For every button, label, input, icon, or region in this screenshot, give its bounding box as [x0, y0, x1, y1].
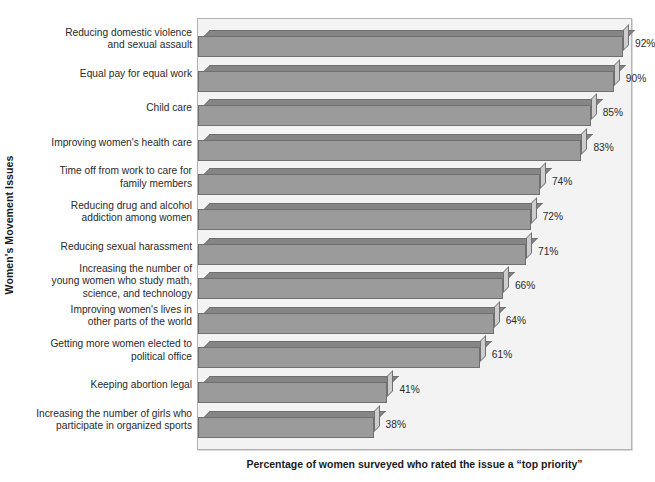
category-label: Keeping abortion legal: [18, 379, 192, 392]
category-label-line: political office: [131, 351, 192, 362]
category-label-line: Child care: [146, 102, 192, 113]
category-label: Time off from work to care forfamily mem…: [18, 165, 192, 190]
bar[interactable]: [198, 417, 374, 438]
bar-value-label: 74%: [552, 176, 572, 187]
bar-side-face: [540, 162, 546, 189]
category-label: Increasing the number ofyoung women who …: [18, 263, 192, 301]
bar[interactable]: [198, 244, 526, 265]
bar-value-label: 72%: [543, 211, 563, 222]
bar-row: 85%: [198, 94, 631, 130]
bar-row: 64%: [198, 302, 631, 338]
category-label-line: Increasing the number of girls who: [36, 408, 192, 419]
bar-row: 66%: [198, 267, 631, 303]
bar[interactable]: [198, 71, 614, 92]
category-label: Child care: [18, 102, 192, 115]
category-label-line: Improving women's health care: [51, 137, 192, 148]
bar-side-face: [494, 301, 500, 328]
chart-plot-area: 92%90%85%83%74%72%71%66%64%61%41%38%: [197, 18, 632, 450]
category-label-line: Reducing sexual harassment: [61, 241, 192, 252]
bar[interactable]: [198, 105, 591, 126]
bar[interactable]: [198, 36, 623, 57]
category-label-line: other parts of the world: [88, 316, 192, 327]
bar-row: 83%: [198, 129, 631, 165]
category-label: Improving women's lives inother parts of…: [18, 304, 192, 329]
category-label: Increasing the number of girls whopartic…: [18, 408, 192, 433]
bar[interactable]: [198, 209, 531, 230]
category-label: Reducing sexual harassment: [18, 241, 192, 254]
bar-row: 71%: [198, 233, 631, 269]
bar-value-label: 38%: [386, 419, 406, 430]
y-axis-title: Women's Movement Issues: [0, 0, 18, 450]
bar-value-label: 90%: [626, 73, 646, 84]
x-axis-title: Percentage of women surveyed who rated t…: [197, 458, 632, 470]
bar-value-label: 61%: [492, 349, 512, 360]
bar[interactable]: [198, 174, 540, 195]
category-label: Getting more women elected topolitical o…: [18, 338, 192, 363]
bar-side-face: [526, 232, 532, 259]
bar-side-face: [581, 128, 587, 155]
bar-value-label: 85%: [603, 107, 623, 118]
category-label-line: family members: [120, 178, 192, 189]
bar-side-face: [591, 93, 597, 120]
category-label-line: Equal pay for equal work: [80, 68, 192, 79]
category-label-line: science, and technology: [83, 288, 192, 299]
category-label: Reducing drug and alcoholaddiction among…: [18, 200, 192, 225]
bar-value-label: 92%: [635, 38, 655, 49]
category-label-line: Reducing drug and alcohol: [71, 200, 192, 211]
bar-value-label: 66%: [515, 280, 535, 291]
bar-value-label: 41%: [399, 384, 419, 395]
bar-side-face: [480, 335, 486, 362]
bar[interactable]: [198, 313, 494, 334]
bar-side-face: [503, 266, 509, 293]
category-label-column: Reducing domestic violenceand sexual ass…: [18, 18, 196, 450]
bar[interactable]: [198, 382, 387, 403]
category-label-line: Increasing the number of: [79, 263, 192, 274]
category-label-line: Getting more women elected to: [50, 338, 192, 349]
category-label: Equal pay for equal work: [18, 68, 192, 81]
bar[interactable]: [198, 140, 581, 161]
category-label-line: Time off from work to care for: [60, 165, 192, 176]
bar[interactable]: [198, 278, 503, 299]
category-label-line: young women who study math,: [52, 275, 192, 286]
y-axis-title-text: Women's Movement Issues: [3, 156, 15, 295]
category-label-line: Improving women's lives in: [71, 304, 192, 315]
category-label-line: Reducing domestic violence: [65, 27, 192, 38]
bar-row: 38%: [198, 406, 631, 442]
category-label-line: participate in organized sports: [56, 420, 192, 431]
bar-side-face: [614, 59, 620, 86]
bar[interactable]: [198, 347, 480, 368]
bar-side-face: [374, 405, 380, 432]
bar-row: 74%: [198, 163, 631, 199]
bar-value-label: 64%: [506, 315, 526, 326]
bar-row: 90%: [198, 60, 631, 96]
bar-row: 61%: [198, 336, 631, 372]
category-label-line: addiction among women: [82, 212, 192, 223]
bar-value-label: 71%: [538, 246, 558, 257]
bar-row: 92%: [198, 25, 631, 61]
category-label-line: and sexual assault: [108, 39, 192, 50]
bar-row: 41%: [198, 371, 631, 407]
category-label: Improving women's health care: [18, 137, 192, 150]
category-label-line: Keeping abortion legal: [91, 379, 192, 390]
bar-value-label: 83%: [593, 142, 613, 153]
bar-side-face: [531, 197, 537, 224]
bar-row: 72%: [198, 198, 631, 234]
bar-side-face: [623, 24, 629, 51]
category-label: Reducing domestic violenceand sexual ass…: [18, 27, 192, 52]
bar-side-face: [387, 370, 393, 397]
